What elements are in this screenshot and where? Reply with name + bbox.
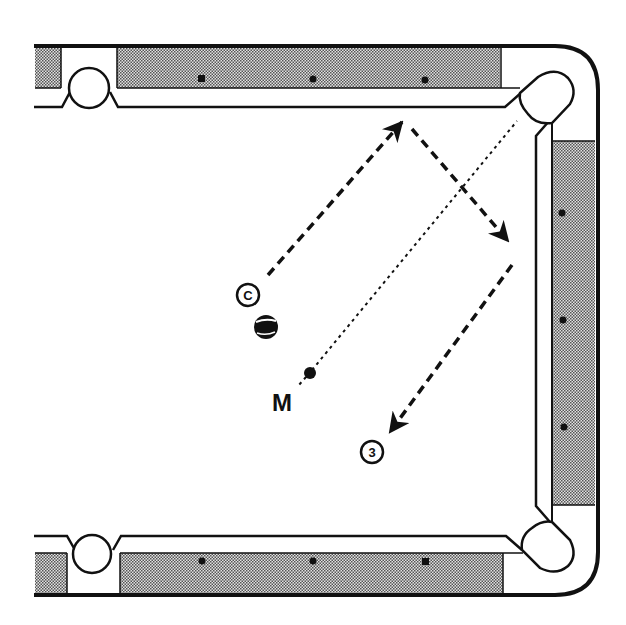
corner-pocket-shape <box>520 72 574 124</box>
top-rail-stipple-left <box>35 48 61 88</box>
object-ball-3: 3 <box>361 441 383 463</box>
diamond-marker <box>422 558 429 565</box>
table-outer-edge <box>34 46 598 595</box>
marker-label-M: M <box>272 389 292 417</box>
right-rail-stipple <box>552 141 595 505</box>
diamond-marker <box>561 424 568 431</box>
cue-path-to-right-rail <box>412 129 508 241</box>
balls: C 3 <box>237 284 383 463</box>
bottom-rail-stipple-left <box>35 553 67 593</box>
bottom-side-pocket <box>73 535 111 573</box>
bottom-right-corner-pocket <box>522 522 574 572</box>
right-rail <box>536 120 595 523</box>
diamond-marker <box>198 75 205 82</box>
cue-path-to-top-rail <box>268 122 402 275</box>
shot-paths <box>268 121 517 432</box>
cue-path-to-ball-3 <box>390 265 512 432</box>
aim-line-M-tail <box>298 377 306 386</box>
billiards-diagram: C 3 <box>0 0 626 625</box>
top-rail-stipple-main <box>117 48 500 88</box>
striped-ball-circle <box>254 315 278 339</box>
diamond-marker <box>559 210 566 217</box>
top-side-pocket <box>69 68 109 108</box>
marker-M <box>304 367 316 379</box>
diamond-marker <box>199 558 206 565</box>
cue-ball: C <box>237 284 259 306</box>
cue-ball-label: C <box>243 288 253 303</box>
striped-ball <box>254 315 278 339</box>
aim-line-M-to-E <box>312 121 517 370</box>
bottom-rail <box>34 535 523 593</box>
corner-pocket-shape <box>522 522 574 572</box>
right-cushion-line <box>536 120 550 522</box>
top-right-corner-pocket <box>520 72 574 124</box>
diamond-marker <box>422 77 429 84</box>
object-ball-label: 3 <box>368 445 375 460</box>
diamond-marker <box>310 558 317 565</box>
top-rail <box>34 46 598 595</box>
diamond-marker <box>310 76 317 83</box>
diamond-marker <box>560 317 567 324</box>
marker-dot <box>304 367 316 379</box>
